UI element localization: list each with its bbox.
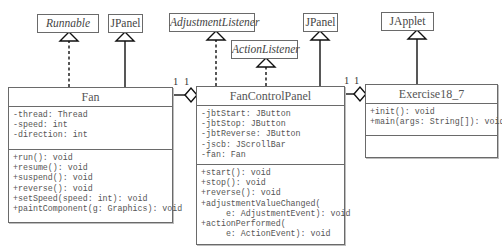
class-jpanel-middle: JPanel [303,13,338,32]
class-fan: Fan -thread: Thread -speed: int -directi… [8,87,173,223]
method: +main(args: String[]): void [370,117,497,127]
multiplicity-panel-right: 1 [354,75,359,86]
method: e: AdjustmentEvent): void [201,209,344,219]
uml-class-diagram: Runnable JPanel AdjustmentListener Actio… [0,0,502,249]
multiplicity-fan-right: 1 [184,76,189,87]
method: +resume(): void [13,163,172,173]
method: e: ActionEvent): void [201,229,344,239]
method: +adjustmentValueChanged( [201,199,344,209]
class-jpanel-left: JPanel [108,14,143,33]
field: -thread: Thread [13,110,172,120]
method: +run(): void [13,153,172,163]
method: +setSpeed(speed: int): void [13,194,172,204]
method: +reverse(): void [13,184,172,194]
interface-adjustment-listener: AdjustmentListener [169,13,255,32]
method: +actionPerformed( [201,219,344,229]
multiplicity-fan-left: 1 [173,76,178,87]
method: +paintComponent(g: Graphics): void [13,204,172,214]
field: -fan: Fan [201,150,344,160]
interface-action-listener: ActionListener [231,40,298,59]
method: +init(): void [370,107,497,117]
empty-section [366,136,497,142]
interface-runnable: Runnable [37,14,99,33]
triangle-arrow-action [257,58,275,67]
methods-section: +init(): void +main(args: String[]): voi… [366,104,497,136]
triangle-arrow-jpanel-middle [311,31,329,40]
fields-section: -thread: Thread -speed: int -direction: … [9,107,172,150]
method: +suspend(): void [13,173,172,183]
triangle-arrow-japplet [408,30,426,39]
class-japplet: JApplet [381,12,434,31]
methods-section: +run(): void +resume(): void +suspend():… [9,150,172,217]
field: -jbtStart: JButton [201,109,344,119]
field: -speed: int [13,120,172,130]
class-fan-control-panel: FanControlPanel -jbtStart: JButton -jbtS… [196,86,345,245]
method: +reverse(): void [201,188,344,198]
multiplicity-panel-left: 1 [344,75,349,86]
class-name: Exercise18_7 [366,85,497,104]
field: -direction: int [13,130,172,140]
methods-section: +start(): void +stop(): void +reverse():… [197,165,344,242]
fields-section: -jbtStart: JButton -jbtStop: JButton -jb… [197,106,344,165]
class-exercise18-7: Exercise18_7 +init(): void +main(args: S… [365,84,498,158]
method: +start(): void [201,168,344,178]
field: -jscb: JScrollBar [201,140,344,150]
method: +stop(): void [201,178,344,188]
field: -jbtReverse: JButton [201,129,344,139]
triangle-arrow-jpanel-left [116,32,134,41]
class-name: Fan [9,88,172,107]
field: -jbtStop: JButton [201,119,344,129]
class-name: FanControlPanel [197,87,344,106]
triangle-arrow-adjustment [207,31,225,40]
triangle-arrow-runnable [60,32,78,41]
